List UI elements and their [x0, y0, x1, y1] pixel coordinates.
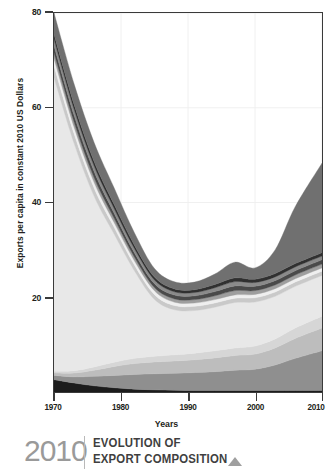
y-tick-mark [45, 202, 53, 204]
y-axis-title: Exports per capita in constant 2010 US D… [15, 57, 25, 289]
caption-divider [84, 436, 85, 469]
y-tick-mark [45, 11, 53, 13]
x-tick-mark [256, 393, 258, 401]
x-tick-mark [188, 393, 190, 401]
caption-year: 2010 [24, 432, 87, 470]
caption-bar: 2010 EVOLUTION OF EXPORT COMPOSITION [0, 434, 333, 473]
caption-line-1: EVOLUTION OF [93, 436, 227, 452]
x-tick-label: 1970 [36, 403, 70, 412]
export-composition-chart-page: Exports per capita in constant 2010 US D… [0, 0, 333, 473]
triangle-up-icon [228, 457, 242, 466]
x-tick-label: 1980 [104, 403, 138, 412]
x-tick-mark [53, 393, 55, 401]
x-tick-label: 2010 [299, 403, 333, 412]
caption-line-2: EXPORT COMPOSITION [93, 452, 227, 468]
stacked-area-plot [54, 13, 322, 392]
x-tick-label: 1990 [171, 403, 205, 412]
x-tick-mark [121, 393, 123, 401]
caption-text: EVOLUTION OF EXPORT COMPOSITION [93, 436, 239, 467]
x-tick-label: 2000 [239, 403, 273, 412]
y-tick-mark [45, 107, 53, 109]
y-tick-mark [45, 297, 53, 299]
chart-figure: Exports per capita in constant 2010 US D… [0, 0, 333, 432]
y-tick-label: 20 [21, 293, 41, 303]
y-tick-label: 80 [21, 7, 41, 17]
plot-area [53, 12, 323, 393]
y-tick-label: 40 [21, 197, 41, 207]
x-axis-title: Years [0, 419, 333, 429]
y-tick-label: 60 [21, 102, 41, 112]
x-tick-mark [322, 393, 324, 401]
